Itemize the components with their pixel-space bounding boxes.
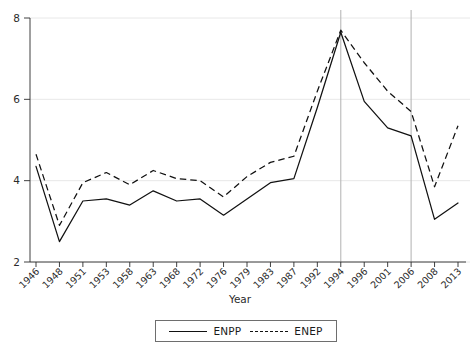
x-tick-label-1987: 1987 <box>274 266 299 291</box>
y-tick-label-4: 4 <box>13 174 20 186</box>
legend-entry-enpp: ENPP <box>169 325 241 337</box>
reference-lines <box>341 10 411 262</box>
grid-lines <box>30 18 470 262</box>
x-tick-label-1958: 1958 <box>110 266 135 291</box>
x-tick-label-1951: 1951 <box>63 266 88 291</box>
x-axis-title: Year <box>228 293 252 305</box>
series-line-enpp <box>36 32 458 241</box>
x-axis-ticks: 1946194819511953195819631968197219761979… <box>17 262 464 291</box>
legend-label-enep: ENEP <box>294 325 322 337</box>
x-tick-label-1994: 1994 <box>321 266 346 291</box>
chart-legend: ENPP ENEP <box>155 320 337 342</box>
x-tick-label-1996: 1996 <box>345 266 370 291</box>
y-tick-label-6: 6 <box>13 93 20 105</box>
y-axis-ticks: 2468 <box>13 12 30 268</box>
chart-container: 2468 19461948195119531958196319681972197… <box>0 0 472 351</box>
y-tick-label-8: 8 <box>13 12 20 24</box>
x-tick-label-1972: 1972 <box>181 266 206 291</box>
x-tick-label-1953: 1953 <box>87 266 112 291</box>
x-tick-label-1979: 1979 <box>228 266 253 291</box>
data-series <box>36 30 458 241</box>
x-tick-label-1983: 1983 <box>251 266 276 291</box>
legend-entry-enep: ENEP <box>250 325 322 337</box>
x-tick-label-1968: 1968 <box>157 266 182 291</box>
y-tick-label-2: 2 <box>13 256 20 268</box>
axes <box>30 18 466 262</box>
x-tick-label-1992: 1992 <box>298 266 323 291</box>
line-chart-plot: 2468 19461948195119531958196319681972197… <box>0 0 472 351</box>
x-tick-label-2001: 2001 <box>368 266 393 291</box>
series-line-enep <box>36 30 458 225</box>
x-tick-label-1946: 1946 <box>17 266 42 291</box>
x-tick-label-1976: 1976 <box>204 266 229 291</box>
legend-key-solid-icon <box>169 331 207 332</box>
legend-key-dashed-icon <box>250 331 288 332</box>
x-tick-label-2013: 2013 <box>439 266 464 291</box>
x-tick-label-1948: 1948 <box>40 266 65 291</box>
x-tick-label-1963: 1963 <box>134 266 159 291</box>
legend-label-enpp: ENPP <box>213 325 241 337</box>
x-tick-label-2006: 2006 <box>392 266 417 291</box>
x-tick-label-2008: 2008 <box>415 266 440 291</box>
